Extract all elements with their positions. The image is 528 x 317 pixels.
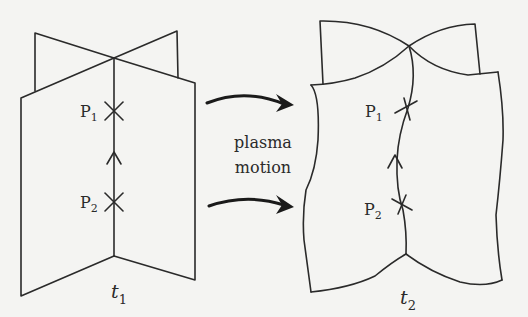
right-panel-t2: P1 P2 t2	[303, 21, 503, 313]
right-front-right-top	[409, 46, 498, 75]
left-back-left-plane	[35, 33, 114, 91]
right-front-left-top	[311, 46, 409, 85]
right-p1-cross-icon	[395, 98, 417, 120]
right-front-right-bottom	[406, 254, 502, 285]
right-front-left-edge	[303, 85, 318, 292]
transition-label-line1: plasma	[234, 133, 292, 152]
right-back-right-plane	[409, 24, 480, 74]
right-direction-chevron-icon	[388, 155, 402, 168]
right-p2-cross-icon	[392, 195, 412, 214]
left-front-right-plane	[114, 58, 195, 280]
right-front-left-bottom	[311, 254, 406, 292]
plasma-motion-diagram: P1 P2 t1 plasma motion	[0, 0, 528, 317]
top-arrow	[207, 96, 284, 104]
left-back-right-plane	[114, 31, 178, 78]
left-time-label: t1	[111, 280, 127, 307]
left-front-left-plane	[21, 58, 114, 296]
right-time-label: t2	[400, 286, 416, 313]
right-p2-label: P2	[364, 200, 382, 222]
left-panel-t1: P1 P2 t1	[21, 31, 195, 307]
transition: plasma motion	[207, 94, 294, 214]
left-p1-label: P1	[80, 102, 98, 124]
bottom-arrow	[209, 199, 284, 206]
right-field-line	[397, 46, 413, 254]
right-p1-label: P1	[365, 102, 383, 124]
transition-label-line2: motion	[235, 158, 291, 177]
left-p2-label: P2	[80, 193, 98, 215]
right-front-right-edge	[496, 72, 503, 280]
